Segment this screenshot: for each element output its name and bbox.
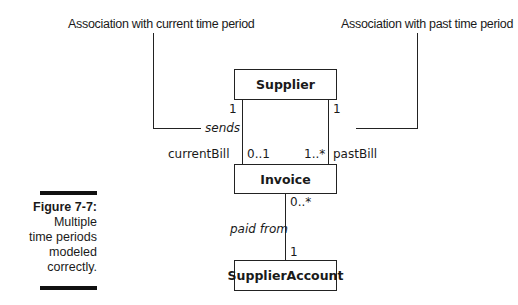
multiplicity-invoice-payment: 0..* [290, 195, 311, 209]
multiplicity-invoice-current: 0..1 [247, 147, 270, 161]
association-name-paid-from: paid from [230, 222, 288, 236]
multiplicity-supplier-current: 1 [229, 102, 237, 116]
class-supplier-account: SupplierAccount [234, 260, 337, 291]
role-current-bill: currentBill [168, 147, 230, 161]
class-supplier-account-label: SupplierAccount [228, 268, 344, 283]
callout-past-time-period: Association with past time period [341, 17, 513, 31]
callout-past-leader-vertical [417, 33, 418, 129]
caption-bottom-rule [40, 286, 97, 290]
callout-current-leader-horizontal [153, 128, 201, 129]
callout-current-leader-vertical [153, 33, 154, 129]
class-supplier: Supplier [234, 69, 337, 100]
multiplicity-invoice-past: 1..* [304, 147, 325, 161]
figure-caption: Figure 7-7: Multiple time periods modele… [7, 200, 97, 275]
class-invoice-label: Invoice [260, 172, 310, 187]
caption-title: Figure 7-7: [7, 200, 97, 215]
class-invoice: Invoice [234, 164, 337, 194]
association-current-line [242, 99, 243, 165]
role-past-bill: pastBill [333, 147, 377, 161]
caption-line: time periods [7, 230, 97, 245]
caption-top-rule [40, 191, 97, 195]
caption-line: Multiple [7, 215, 97, 230]
multiplicity-supplier-past: 1 [333, 102, 341, 116]
callout-past-leader-horizontal [356, 128, 418, 129]
caption-line: modeled [7, 245, 97, 260]
class-supplier-label: Supplier [256, 77, 315, 92]
association-past-line [328, 99, 329, 165]
multiplicity-account-payment: 1 [290, 245, 298, 259]
callout-current-time-period: Association with current time period [68, 17, 255, 31]
association-name-sends: sends [205, 121, 240, 135]
caption-line: correctly. [7, 260, 97, 275]
